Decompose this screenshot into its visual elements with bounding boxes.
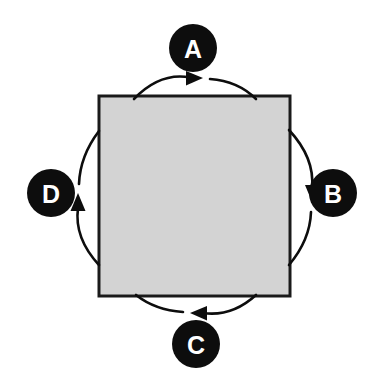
cycle-node-c[interactable]: C xyxy=(172,320,220,368)
arrow-bottom-arrowhead xyxy=(190,306,207,321)
arrow-top-arrowhead xyxy=(186,71,203,86)
cycle-node-a[interactable]: A xyxy=(169,24,217,72)
arrow-left-arc-bottom xyxy=(77,208,99,265)
arrow-bottom xyxy=(136,295,256,321)
process-square xyxy=(99,96,290,296)
arrow-right-arc-bottom xyxy=(289,212,311,265)
cycle-node-d[interactable]: D xyxy=(27,169,75,217)
process-square-texture xyxy=(101,98,288,294)
arrow-left-arc-top xyxy=(79,131,99,184)
cycle-node-d-label: D xyxy=(42,180,60,208)
arrow-left xyxy=(71,131,100,265)
diagram-svg-canvas: A B C D xyxy=(0,0,377,387)
cycle-node-c-label: C xyxy=(187,331,205,359)
cycle-diagram-figure: A B C D xyxy=(0,0,377,387)
arrow-bottom-arc-right xyxy=(203,295,256,314)
cycle-node-a-label: A xyxy=(184,35,202,63)
arrow-bottom-arc-left xyxy=(136,295,183,312)
arrow-right-arc-top xyxy=(289,130,312,188)
cycle-node-b-label: B xyxy=(324,180,342,208)
cycle-node-b[interactable]: B xyxy=(309,169,357,217)
